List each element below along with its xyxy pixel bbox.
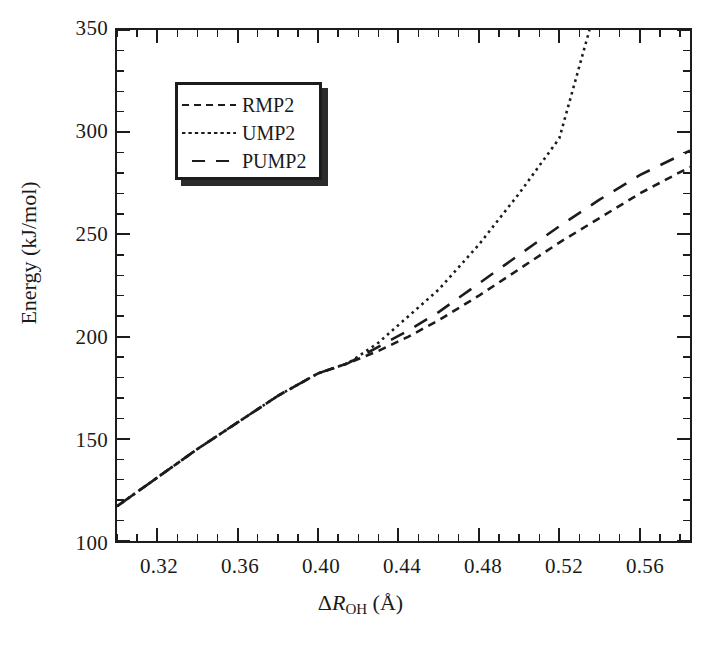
x-tick-label-032: 0.32 bbox=[119, 556, 199, 577]
x-axis-title-symbol: R bbox=[332, 590, 345, 615]
legend-label-rmp2: RMP2 bbox=[240, 95, 294, 115]
y-tick-label-100: 100 bbox=[46, 533, 108, 554]
y-axis-title: Energy (kJ/mol) bbox=[16, 133, 42, 373]
x-axis-title-unit: (Å) bbox=[373, 590, 404, 615]
x-axis-title-subscript: OH bbox=[345, 601, 367, 617]
legend-box: RMP2 UMP2 PUMP2 bbox=[175, 82, 322, 180]
x-tick-label-040: 0.40 bbox=[281, 556, 361, 577]
x-tick-label-044: 0.44 bbox=[362, 556, 442, 577]
figure-container: 350 300 250 200 150 100 Energy (kJ/mol) … bbox=[0, 0, 721, 646]
y-tick-label-300: 300 bbox=[46, 121, 108, 142]
y-tick-label-350: 350 bbox=[46, 18, 108, 39]
legend-dash-sample-ump2 bbox=[178, 123, 240, 143]
legend-dash-sample-rmp2 bbox=[178, 95, 240, 115]
y-axis-tick-labels: 350 300 250 200 150 100 bbox=[38, 0, 108, 646]
x-tick-label-052: 0.52 bbox=[524, 556, 604, 577]
series-line-rmp2 bbox=[117, 167, 690, 506]
series-line-pump2 bbox=[117, 151, 690, 507]
x-tick-label-036: 0.36 bbox=[200, 556, 280, 577]
x-tick-label-056: 0.56 bbox=[605, 556, 685, 577]
y-tick-label-250: 250 bbox=[46, 224, 108, 245]
y-tick-label-200: 200 bbox=[46, 327, 108, 348]
y-tick-label-150: 150 bbox=[46, 430, 108, 451]
x-axis-title-delta: Δ bbox=[318, 590, 332, 615]
x-tick-label-048: 0.48 bbox=[443, 556, 523, 577]
x-axis-title: ΔROH (Å) bbox=[0, 590, 721, 616]
legend-item-pump2[interactable]: PUMP2 bbox=[178, 148, 319, 174]
legend-item-rmp2[interactable]: RMP2 bbox=[178, 92, 319, 118]
legend-dash-sample-pump2 bbox=[178, 151, 240, 171]
legend-label-ump2: UMP2 bbox=[240, 123, 295, 143]
x-axis-tick-labels: 0.32 0.36 0.40 0.44 0.48 0.52 0.56 bbox=[0, 556, 721, 586]
legend-item-ump2[interactable]: UMP2 bbox=[178, 120, 319, 146]
y-axis-title-wrapper: Energy (kJ/mol) bbox=[0, 0, 40, 646]
legend-label-pump2: PUMP2 bbox=[240, 151, 306, 171]
